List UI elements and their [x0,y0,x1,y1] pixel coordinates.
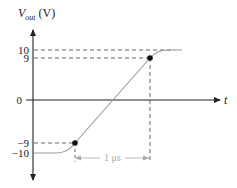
rise-time-diagram: Vout (V) t 10 9 0 −9 −10 1 μs [0,0,237,188]
high-90-percent-point [147,55,153,61]
y-tick-0: 0 [17,94,23,106]
output-waveform [34,50,182,153]
y-axis-label: Vout (V) [18,6,55,22]
y-tick-neg10: −10 [12,147,30,159]
rise-time-label: 1 μs [104,152,121,163]
y-tick-9: 9 [24,52,30,64]
x-axis-label: t [224,93,228,107]
low-10-percent-point [72,140,78,146]
